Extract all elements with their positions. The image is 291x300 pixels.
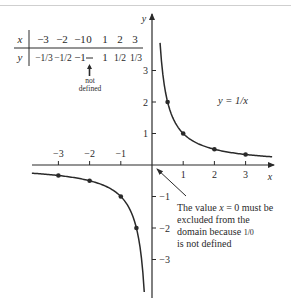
curve-positive-branch: [160, 43, 272, 157]
table-y-value: −1/3: [35, 53, 53, 63]
annotation-line: The value x = 0 must be: [177, 202, 274, 213]
not-defined-label: defined: [79, 84, 102, 93]
curve-negative-branch: [32, 173, 144, 292]
table-x-value: 1: [102, 33, 108, 45]
data-point: [56, 173, 61, 178]
data-point: [181, 131, 186, 136]
x-tick-label: −2: [84, 148, 95, 159]
data-point: [212, 147, 217, 152]
table-y-value: −1: [74, 51, 86, 63]
x-tick-label: 3: [243, 169, 248, 180]
table-y-value: −1/2: [54, 53, 72, 63]
table-x-value: 3: [132, 33, 138, 45]
table-x-value: −3: [37, 33, 49, 45]
table-x-value: 0: [86, 33, 92, 45]
reciprocal-function-graph: x y −3 −2 −1 0 0 1 2 3 −1/3 −1/2 −1 1 1/…: [0, 0, 291, 300]
y-tick-label: −1: [159, 191, 170, 202]
x-tick-label: 1: [181, 169, 186, 180]
table-x-value: 2: [117, 33, 123, 45]
table-x-value: −2: [56, 33, 68, 45]
data-point: [119, 194, 124, 199]
y-tick-label: 2: [143, 97, 148, 108]
x-axis-label: x: [267, 171, 273, 182]
y-tick-label: 1: [143, 128, 148, 139]
table-y-value: 1/3: [130, 53, 142, 63]
y-tick-label: −3: [159, 254, 170, 265]
y-tick-label: 3: [143, 65, 148, 76]
table-x-value: −1: [74, 33, 86, 45]
x-tick-label: 2: [212, 169, 217, 180]
annotation-line: is not defined: [177, 238, 231, 249]
y-axis-label: y: [141, 13, 147, 24]
table-y-value: 1: [102, 51, 108, 63]
annotation-text: The value x = 0 must be excluded from th…: [177, 202, 274, 249]
not-defined-arrowhead-icon: [87, 64, 92, 69]
value-table: x y −3 −2 −1 0 0 1 2 3 −1/3 −1/2 −1 1 1/…: [14, 30, 143, 93]
data-point: [243, 152, 248, 157]
table-row-label-x: x: [17, 33, 23, 45]
function-label: y = 1/x: [217, 95, 248, 106]
table-y-value: 1/2: [114, 53, 126, 63]
table-row-label-y: y: [17, 51, 23, 63]
data-point: [165, 100, 170, 105]
data-point: [87, 178, 92, 183]
y-tick-label: −2: [159, 223, 170, 234]
annotation-line: domain because 1/0: [177, 226, 254, 237]
x-tick-label: −1: [115, 148, 126, 159]
data-point: [134, 226, 139, 231]
annotation-line: excluded from the: [177, 214, 250, 225]
x-tick-label: −3: [53, 148, 64, 159]
